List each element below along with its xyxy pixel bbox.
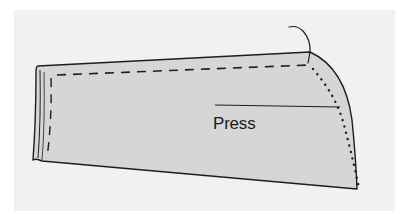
diagram-canvas bbox=[0, 0, 403, 214]
press-label: Press bbox=[213, 114, 255, 134]
